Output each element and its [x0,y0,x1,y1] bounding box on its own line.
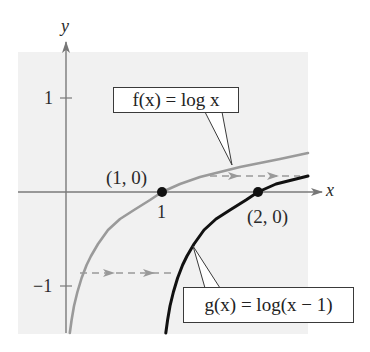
point-2-0 [253,187,263,197]
point-label-2-0: (2, 0) [247,207,288,226]
point-1-0 [157,187,167,197]
f-function-label: f(x) = log x [113,87,239,113]
g-function-text: g(x) = log(x − 1) [204,294,332,316]
y-tick-label-neg1: −1 [33,277,52,295]
f-function-text: f(x) = log x [132,89,219,111]
x-axis-label: x [326,181,334,199]
y-axis-label: y [61,17,69,35]
x-tick-label-1: 1 [157,203,166,221]
point-label-1-0: (1, 0) [106,168,147,187]
y-tick-label-1: 1 [44,89,53,107]
g-function-label: g(x) = log(x − 1) [183,287,354,323]
